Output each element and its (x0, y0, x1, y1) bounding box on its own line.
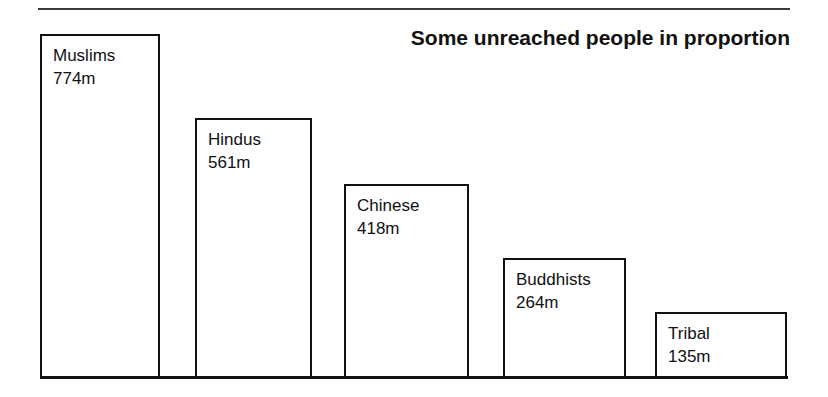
bar-value-buddhists: 264m (516, 291, 591, 314)
bar-category-hindus: Hindus (208, 128, 261, 151)
bar-label-chinese: Chinese 418m (357, 194, 419, 240)
bar-label-tribal: Tribal 135m (668, 322, 711, 368)
bar-value-hindus: 561m (208, 151, 261, 174)
bar-category-tribal: Tribal (668, 322, 711, 345)
bar-value-tribal: 135m (668, 345, 711, 368)
chart-page: Some unreached people in proportion Musl… (0, 0, 828, 397)
plot-area: Muslims 774m Hindus 561m Chinese 418m Bu… (0, 0, 828, 397)
bar-muslims[interactable]: Muslims 774m (40, 34, 160, 377)
bar-chinese[interactable]: Chinese 418m (344, 184, 469, 377)
bar-label-hindus: Hindus 561m (208, 128, 261, 174)
bar-value-chinese: 418m (357, 217, 419, 240)
bar-category-buddhists: Buddhists (516, 268, 591, 291)
baseline-axis (40, 376, 788, 379)
bar-buddhists[interactable]: Buddhists 264m (503, 258, 626, 377)
bar-category-muslims: Muslims (53, 44, 115, 67)
bar-label-buddhists: Buddhists 264m (516, 268, 591, 314)
bar-hindus[interactable]: Hindus 561m (195, 118, 312, 377)
bar-value-muslims: 774m (53, 67, 115, 90)
bar-tribal[interactable]: Tribal 135m (655, 312, 787, 377)
bar-category-chinese: Chinese (357, 194, 419, 217)
bar-label-muslims: Muslims 774m (53, 44, 115, 90)
